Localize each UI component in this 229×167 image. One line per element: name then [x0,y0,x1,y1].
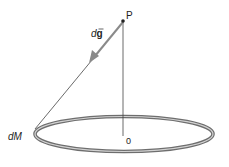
ring-field-diagram: P dg dM 0 [0,0,229,167]
field-element-label: dg [91,28,103,39]
field-element-vector: g [97,28,103,39]
point-p-label: P [126,10,133,21]
point-p-dot [121,19,125,23]
ring [35,117,213,152]
ring-inner-highlight [35,117,213,152]
mass-element-label: dM [8,131,23,142]
center-label: 0 [126,136,131,146]
